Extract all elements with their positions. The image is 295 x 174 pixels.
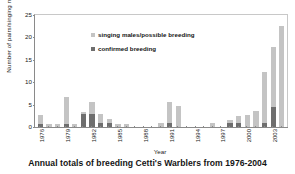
x-axis-tick-mark (203, 126, 204, 128)
y-axis-tick-label: 0 (12, 124, 32, 130)
bar-slot (234, 15, 243, 127)
x-axis-title: Year (34, 148, 286, 155)
x-axis-tick-mark (143, 126, 144, 128)
x-axis-tick-mark (177, 126, 178, 128)
x-axis-slot (277, 128, 286, 150)
x-axis-slot (173, 128, 182, 150)
stacked-bar (81, 112, 86, 127)
plot-area: 0510152025 singing males/possible breedi… (34, 14, 288, 127)
x-axis-tick-mark (264, 126, 265, 128)
stacked-bar (279, 26, 284, 127)
x-axis-slot (147, 128, 156, 150)
x-axis-tick-mark (281, 126, 282, 128)
stacked-bar (64, 97, 69, 127)
stacked-bar (271, 47, 276, 127)
x-axis-tick-mark (100, 126, 101, 128)
bar-slot (278, 15, 287, 127)
chart-caption: Annual totals of breeding Cetti's Warble… (0, 158, 295, 168)
bar-slot (53, 15, 62, 127)
x-axis-tick-mark (255, 126, 256, 128)
x-axis-tick-mark (160, 126, 161, 128)
stacked-bar (262, 72, 267, 127)
x-axis-slot (52, 128, 61, 150)
stacked-bar (176, 106, 181, 128)
bar-slot (252, 15, 261, 127)
x-axis-tick-mark (126, 126, 127, 128)
x-axis-tick-mark (229, 126, 230, 128)
x-axis-tick-mark (272, 126, 273, 128)
x-axis-tick-mark (169, 126, 170, 128)
bar-segment-singing-males (98, 114, 103, 123)
x-axis-slot (182, 128, 191, 150)
bar-segment-singing-males (176, 106, 181, 128)
x-axis-slot (225, 128, 234, 150)
legend-swatch-icon-singing-males (91, 33, 95, 37)
x-axis-tick-mark (195, 126, 196, 128)
x-axis-slot (251, 128, 260, 150)
bar-slot (269, 15, 278, 127)
legend-item-confirmed-breeding: confirmed breeding (91, 45, 195, 52)
y-axis-tick-label: 20 (12, 34, 32, 40)
bar-segment-singing-males (236, 116, 241, 124)
y-axis-tick-label: 10 (12, 79, 32, 85)
legend-swatch-icon-confirmed-breeding (91, 47, 95, 51)
x-axis-slot: 2000 (242, 128, 251, 150)
x-axis-slot: 2003 (268, 128, 277, 150)
x-axis-slot (44, 128, 53, 150)
x-axis-tick-labels: 1976197919821985198819911994199720002003 (34, 128, 286, 150)
legend-label-confirmed-breeding: confirmed breeding (98, 45, 156, 52)
x-axis-tick-mark (91, 126, 92, 128)
y-axis-tick-label: 15 (12, 57, 32, 63)
bar-slot (243, 15, 252, 127)
x-axis-slot: 1985 (113, 128, 122, 150)
bar-segment-singing-males (262, 72, 267, 124)
bar-slot (217, 15, 226, 127)
x-axis-slot: 1994 (190, 128, 199, 150)
bar-slot (209, 15, 218, 127)
x-axis-slot (130, 128, 139, 150)
bar-slot (79, 15, 88, 127)
y-axis-title: Number of pairs/singing males (5, 0, 12, 82)
x-axis-slot: 1982 (87, 128, 96, 150)
x-axis-tick-mark (186, 126, 187, 128)
bar-segment-singing-males (64, 97, 69, 124)
x-axis-slot: 1976 (35, 128, 44, 150)
bar-segment-confirmed-breeding (271, 107, 276, 127)
x-axis-tick-mark (39, 126, 40, 128)
stacked-bar (167, 102, 172, 127)
bar-slot (260, 15, 269, 127)
bar-slot (226, 15, 235, 127)
bar-slot (71, 15, 80, 127)
bar-slot (200, 15, 209, 127)
x-axis-tick-mark (65, 126, 66, 128)
x-axis-slot (199, 128, 208, 150)
bar-slot (45, 15, 54, 127)
x-axis-slot (104, 128, 113, 150)
x-axis-tick-mark (238, 126, 239, 128)
x-axis-slot (208, 128, 217, 150)
x-axis-slot: 1991 (164, 128, 173, 150)
bar-segment-singing-males (279, 26, 284, 127)
x-axis-slot: 1988 (139, 128, 148, 150)
x-axis-tick-mark (220, 126, 221, 128)
x-axis-slot: 1997 (216, 128, 225, 150)
bar-segment-singing-males (253, 111, 258, 127)
bar-segment-singing-males (167, 102, 172, 124)
chart-legend: singing males/possible breeding confirme… (91, 31, 195, 52)
bar-chart: Number of pairs/singing males 0510152025… (0, 0, 295, 174)
x-axis-tick-mark (108, 126, 109, 128)
x-axis-tick-mark (74, 126, 75, 128)
x-axis-tick-mark (117, 126, 118, 128)
bar-segment-singing-males (38, 115, 43, 124)
x-axis-slot (78, 128, 87, 150)
x-axis-tick-mark (151, 126, 152, 128)
bar-slot (62, 15, 71, 127)
x-axis-slot (121, 128, 130, 150)
x-axis-slot (233, 128, 242, 150)
y-axis-tick-label: 25 (12, 12, 32, 18)
bar-segment-singing-males (271, 47, 276, 107)
x-axis-tick-mark (48, 126, 49, 128)
x-axis-slot (156, 128, 165, 150)
y-axis-tick-label: 5 (12, 101, 32, 107)
x-axis-slot (95, 128, 104, 150)
